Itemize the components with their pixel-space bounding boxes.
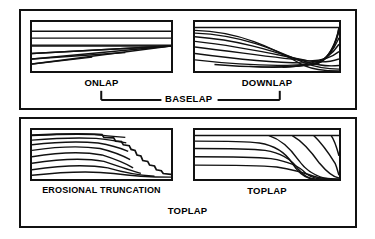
baselap-label: BASELAP	[162, 93, 216, 104]
onlap-diagram	[32, 22, 171, 71]
figure-canvas: ONLAP DOWNLAP BASELAP	[0, 0, 375, 239]
toplap-group-label: TOPLAP	[21, 205, 354, 216]
onlap-box	[30, 20, 173, 73]
toplap-diagram	[195, 130, 339, 179]
onlap-label: ONLAP	[30, 77, 173, 88]
downlap-label: DOWNLAP	[193, 77, 341, 88]
toplap-box	[193, 128, 341, 181]
downlap-diagram	[195, 22, 339, 71]
erosional-truncation-box	[30, 128, 173, 181]
toplap-panel: EROSIONAL TRUNCATION TOPLAP TOPLAP	[19, 117, 357, 228]
downlap-box	[193, 20, 341, 73]
toplap-box-label: TOPLAP	[193, 185, 341, 196]
erosional-truncation-diagram	[32, 130, 171, 179]
erosional-truncation-label: EROSIONAL TRUNCATION	[25, 185, 178, 195]
baselap-panel: ONLAP DOWNLAP BASELAP	[19, 9, 357, 110]
